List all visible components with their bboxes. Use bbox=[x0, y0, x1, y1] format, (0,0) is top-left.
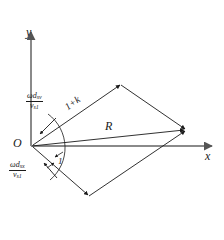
fraction-numerator: ωdsv bbox=[26, 92, 43, 101]
fraction-denominator: vs1 bbox=[26, 101, 43, 111]
fraction-numerator: ωdsx bbox=[9, 161, 26, 170]
angle-label-1: 1 bbox=[58, 157, 63, 166]
parallelogram-group bbox=[33, 85, 185, 196]
side-bottom-to-right bbox=[89, 131, 185, 196]
fraction-numerator-main: ωd bbox=[27, 91, 37, 100]
component-arrows-group bbox=[40, 118, 57, 178]
fraction-numerator-sub: sx bbox=[20, 163, 25, 169]
fraction-omega-d-sx-over-v-s1: ωdsx vs1 bbox=[9, 161, 26, 180]
x-axis-label: x bbox=[205, 150, 210, 162]
fraction-denominator: vs1 bbox=[9, 170, 26, 180]
angle-tick-lower bbox=[47, 163, 54, 168]
resultant-label-R: R bbox=[105, 120, 112, 132]
y-axis-label: y bbox=[26, 26, 31, 38]
side-origin-to-top bbox=[33, 85, 120, 145]
fraction-numerator-main: ωd bbox=[10, 160, 20, 169]
side-top-to-right bbox=[121, 85, 185, 129]
fraction-omega-d-sv-over-v-s1: ωdsv vs1 bbox=[26, 92, 43, 111]
fraction-denominator-sub: s1 bbox=[16, 173, 21, 179]
component-arrow-upper bbox=[40, 118, 56, 134]
origin-label: O bbox=[13, 137, 22, 149]
side-origin-to-bottom bbox=[33, 147, 88, 195]
fraction-numerator-sub: sv bbox=[37, 94, 42, 100]
fraction-denominator-sub: s1 bbox=[33, 104, 38, 110]
